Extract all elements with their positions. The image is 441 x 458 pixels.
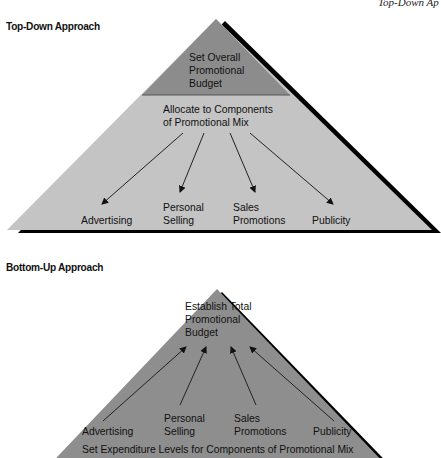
bottom-up-apex-label: Establish TotalPromotionalBudget bbox=[185, 300, 252, 339]
bottom-up-component-publicity: Publicity bbox=[313, 425, 352, 438]
top-down-apex-label: Set OverallPromotionalBudget bbox=[189, 51, 244, 90]
bottom-up-component-advertising: Advertising bbox=[82, 425, 133, 438]
top-down-component-personal-selling: PersonalSelling bbox=[163, 201, 204, 227]
top-down-middle-label: Allocate to Componentsof Promotional Mix bbox=[163, 103, 273, 129]
bottom-up-component-sales-promotions: SalesPromotions bbox=[234, 412, 286, 438]
bottom-up-component-personal-selling: PersonalSelling bbox=[164, 412, 205, 438]
top-down-component-sales-promotions: SalesPromotions bbox=[233, 201, 285, 227]
bottom-up-base-label: Set Expenditure Levels for Components of… bbox=[82, 443, 354, 456]
top-down-component-publicity: Publicity bbox=[312, 214, 351, 227]
bottom-up-title: Bottom-Up Approach bbox=[6, 261, 103, 273]
top-down-component-advertising: Advertising bbox=[81, 214, 132, 227]
